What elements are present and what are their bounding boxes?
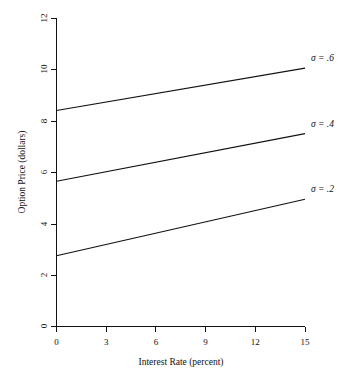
- y-tick-label-4: 4: [39, 221, 49, 226]
- x-tick-label-12: 12: [251, 337, 260, 347]
- sigma-glyph-02: σ = .2: [311, 184, 334, 194]
- chart-canvas: 12 10 8 6 4 2 0 Option Price (dollars) 0…: [0, 0, 355, 381]
- series-line-sigma-06: [57, 68, 306, 110]
- data-series-group: [57, 68, 306, 256]
- series-annotations: σ = .6 σ = .4 σ = .2: [311, 53, 334, 194]
- x-tick-label-3: 3: [104, 337, 109, 347]
- series-label-sigma-06: σ = .6: [311, 53, 334, 63]
- x-tick-label-0: 0: [54, 337, 59, 347]
- y-axis-title: Option Price (dollars): [17, 131, 28, 214]
- series-label-sigma-02: σ = .2: [311, 184, 334, 194]
- x-tick-label-9: 9: [203, 337, 208, 347]
- y-axis-tick-labels: 12 10 8 6 4 2 0: [39, 14, 49, 329]
- x-tick-label-6: 6: [154, 337, 159, 347]
- y-tick-label-10: 10: [39, 64, 49, 74]
- y-tick-label-6: 6: [39, 169, 49, 174]
- y-tick-label-2: 2: [39, 273, 49, 278]
- y-tick-label-12: 12: [39, 14, 49, 23]
- y-axis-ticks: [51, 19, 57, 327]
- x-axis-tick-labels: 0 3 6 9 12 15: [54, 337, 310, 347]
- series-label-sigma-04: σ = .4: [311, 119, 334, 129]
- x-axis-title: Interest Rate (percent): [139, 357, 224, 368]
- sigma-glyph-06: σ = .6: [311, 53, 334, 63]
- series-line-sigma-04: [57, 134, 306, 182]
- sigma-glyph-04: σ = .4: [311, 119, 334, 129]
- x-axis-ticks: [57, 327, 306, 333]
- series-line-sigma-02: [57, 199, 306, 256]
- y-tick-label-8: 8: [39, 118, 49, 123]
- option-price-chart-figure: 12 10 8 6 4 2 0 Option Price (dollars) 0…: [0, 0, 355, 381]
- x-tick-label-15: 15: [301, 337, 311, 347]
- y-tick-label-0: 0: [39, 323, 49, 328]
